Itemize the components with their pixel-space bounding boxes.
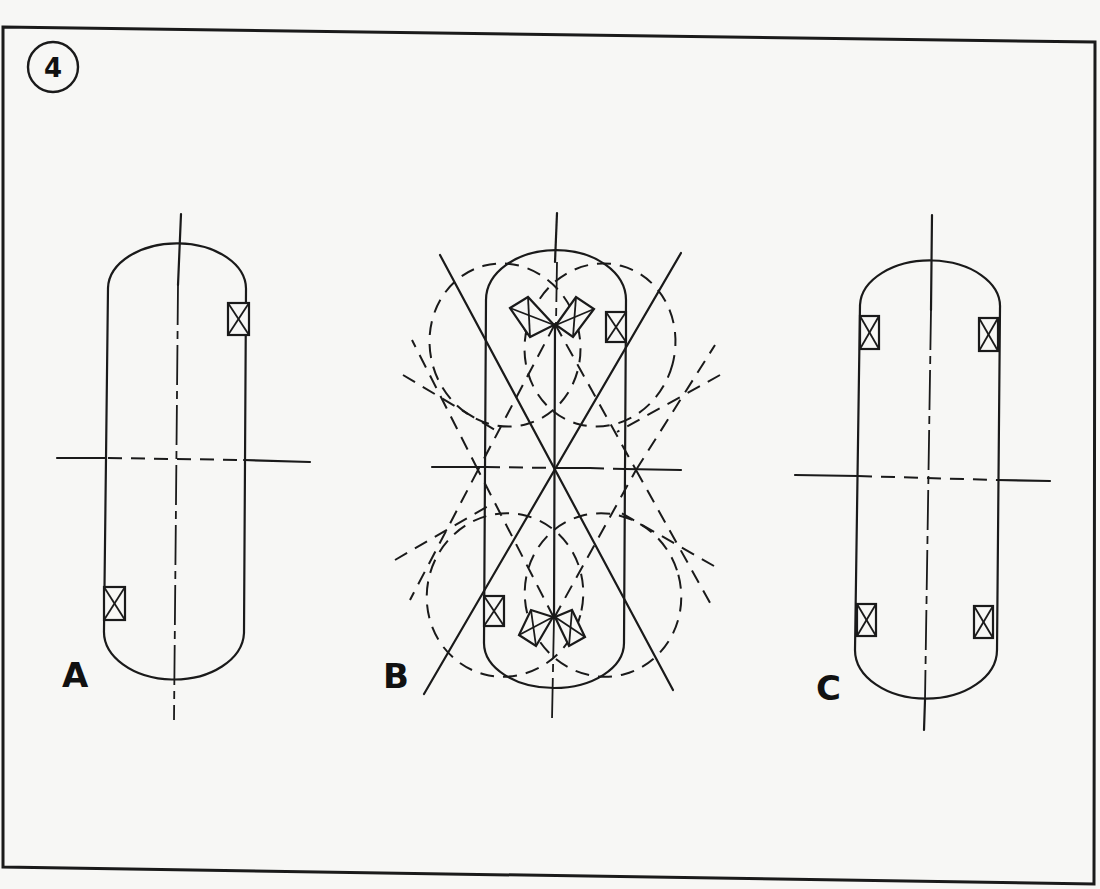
dashed-ray: [636, 470, 714, 610]
radial-line: [424, 253, 681, 694]
upper-left-lobe: [411, 246, 598, 443]
vertical-centerline: [174, 285, 178, 720]
vertical-centerline-top: [556, 262, 557, 324]
horizontal-axis-right: [625, 469, 681, 470]
crossed-box-marker: [979, 318, 998, 351]
vertical-centerline: [925, 310, 931, 700]
figure-number-badge: 4: [28, 42, 78, 92]
vertical-axis: [931, 215, 932, 310]
crossed-box-marker: [860, 316, 879, 349]
crossed-box-marker: [104, 587, 125, 620]
figure-canvas: 4 A: [0, 0, 1100, 889]
panel-label-c: C: [816, 668, 841, 708]
horizontal-axis-right: [244, 460, 310, 462]
tangent-line: [616, 510, 714, 566]
figure-number: 4: [44, 53, 62, 83]
horizontal-axis-right: [997, 480, 1050, 481]
horizontal-centerline: [486, 467, 555, 468]
lower-right-lobe: [506, 496, 699, 695]
horizontal-centerline: [590, 468, 625, 469]
crossed-box-marker: [484, 596, 504, 626]
vertical-axis: [555, 213, 557, 262]
vertical-centerline-bottom: [552, 618, 554, 720]
panel-b: B: [383, 213, 720, 720]
upper-right-lobe: [506, 246, 693, 443]
vertical-axis-bottom: [924, 700, 925, 730]
panel-c: C: [795, 215, 1050, 730]
tangent-line: [617, 375, 720, 432]
crossed-box-marker: [857, 604, 876, 636]
dashed-ray: [636, 345, 715, 470]
tangent-line: [395, 505, 490, 560]
dashed-ray: [410, 470, 478, 600]
figure-frame: [3, 27, 1095, 884]
dashed-ray: [412, 340, 478, 470]
panel-label-a: A: [62, 655, 89, 695]
crossed-box-marker: [228, 303, 249, 335]
vertical-axis: [178, 214, 181, 285]
panel-a: A: [57, 214, 310, 720]
crossed-box-marker: [606, 312, 626, 342]
horizontal-axis-left: [795, 475, 858, 476]
crossed-box-marker: [974, 606, 993, 638]
panel-label-b: B: [383, 656, 409, 696]
